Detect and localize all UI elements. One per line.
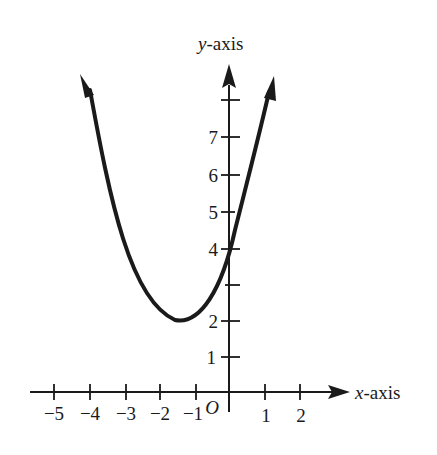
chart: −5 −4 −3 −2 −1 O 1 2 x-axis 1 2 4 5 6 7 … <box>0 0 437 455</box>
x-tick-label: −4 <box>80 403 101 424</box>
x-tick-label: −2 <box>150 403 170 424</box>
y-axis-arrow-icon <box>222 64 236 88</box>
y-tick-label: 1 <box>207 347 217 368</box>
y-tick-label: 7 <box>209 127 219 148</box>
x-tick-label: 2 <box>296 405 306 426</box>
x-tick-label: −3 <box>116 403 136 424</box>
y-axis-label: y-axis <box>196 33 243 54</box>
x-tick-label: 1 <box>261 405 271 426</box>
curve-left-arrow-icon <box>80 74 94 98</box>
y-tick-label: 2 <box>209 311 219 332</box>
x-axis: −5 −4 −3 −2 −1 O 1 2 x-axis <box>30 382 400 426</box>
x-tick-label: −5 <box>44 403 64 424</box>
curve-right-arrow-icon <box>264 76 276 101</box>
origin-label: O <box>205 397 219 418</box>
x-axis-label: x-axis <box>354 382 400 403</box>
y-tick-label: 5 <box>209 202 219 223</box>
parabola-series <box>80 74 276 320</box>
y-tick-label: 6 <box>209 165 219 186</box>
x-tick-label: −1 <box>183 403 203 424</box>
y-tick-label: 4 <box>209 239 219 260</box>
